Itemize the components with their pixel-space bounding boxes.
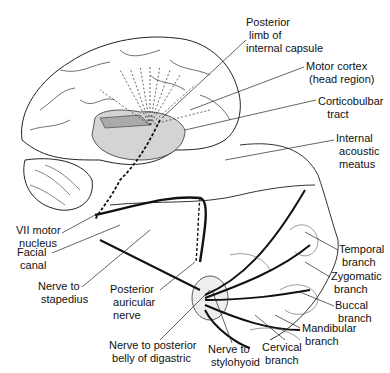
label-internal-acoustic: Internal acoustic meatus: [336, 132, 379, 171]
label-nerve-post-belly-digastric: Nerve to posterior belly of digastric: [109, 339, 196, 365]
label-zygomatic-branch: Zygomatic branch: [331, 270, 382, 296]
label-posterior-auricular: Posterior auricular nerve: [110, 283, 155, 322]
label-nerve-to-stylohyoid: Nerve to stylohyoid: [208, 343, 260, 369]
label-motor-cortex: Motor cortex (head region): [306, 60, 375, 86]
label-posterior-limb: Posterior limb of internal capsule: [246, 16, 323, 55]
label-corticobulbar: Corticobulbar tract: [318, 95, 383, 121]
skull-base: [110, 185, 315, 205]
label-facial-canal: Facial canal: [17, 246, 46, 272]
nerve-dashed-segment: [196, 198, 200, 262]
label-mandibular-branch: Mandibular branch: [302, 322, 356, 348]
label-temporal-branch: Temporal branch: [339, 243, 384, 269]
cerebellum: [24, 159, 93, 211]
label-nerve-to-stapedius: Nerve to stapedius: [38, 280, 88, 306]
facial-canal-path: [95, 197, 206, 262]
label-cervical-branch: Cervical branch: [262, 341, 302, 367]
anatomy-illustration: [0, 0, 390, 373]
facial-nerve-diagram: Posterior limb of internal capsule Motor…: [0, 0, 390, 373]
parotid-gland: [192, 276, 228, 320]
